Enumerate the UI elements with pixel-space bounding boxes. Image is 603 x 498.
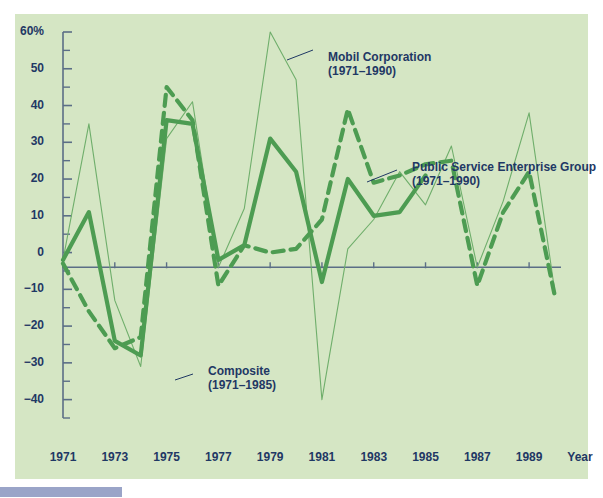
x-axis-label: 1977 [195, 450, 241, 464]
x-axis-label: 1983 [351, 450, 397, 464]
annotation-title: Mobil Corporation [328, 50, 431, 64]
x-axis-label: 1985 [403, 450, 449, 464]
annotation-leader-0 [287, 50, 313, 60]
x-axis-label: 1989 [506, 450, 552, 464]
x-axis-label: 1975 [144, 450, 190, 464]
annotation-title: Composite [208, 364, 276, 378]
y-axis-label: −40 [0, 392, 44, 406]
y-axis-label: 20 [0, 171, 44, 185]
footer-bar [0, 487, 122, 497]
x-axis-end-label: Year [557, 450, 603, 464]
series-line-mobil-corporation [63, 32, 555, 400]
annotation-composite: Composite(1971–1985) [208, 364, 276, 392]
y-axis-label: 50 [0, 61, 44, 75]
chart-svg [15, 14, 588, 479]
y-axis-label: −30 [0, 355, 44, 369]
y-axis-label: 40 [0, 98, 44, 112]
series-line-composite [63, 120, 426, 355]
y-axis-label: −20 [0, 318, 44, 332]
annotation-mobil: Mobil Corporation(1971–1990) [328, 50, 431, 78]
annotation-range: (1971–1985) [208, 378, 276, 392]
x-axis-label: 1973 [92, 450, 138, 464]
x-axis-label: 1979 [247, 450, 293, 464]
y-axis-label: −10 [0, 281, 44, 295]
x-axis-label: 1981 [299, 450, 345, 464]
annotation-range: (1971–1990) [328, 64, 431, 78]
annotation-pseg: Public Service Enterprise Group(1971–199… [412, 160, 596, 188]
chart-panel [15, 14, 588, 479]
y-axis-label: 30 [0, 134, 44, 148]
x-axis-label: 1987 [454, 450, 500, 464]
annotation-range: (1971–1990) [412, 174, 596, 188]
figure-root: 60%50403020100−10−20−30−4019711973197519… [0, 0, 603, 498]
x-axis-label: 1971 [40, 450, 86, 464]
annotation-leader-2 [175, 374, 193, 380]
y-axis-label: 0 [0, 245, 44, 259]
y-axis-label: 10 [0, 208, 44, 222]
y-axis-label: 60% [0, 24, 44, 38]
annotation-title: Public Service Enterprise Group [412, 160, 596, 174]
